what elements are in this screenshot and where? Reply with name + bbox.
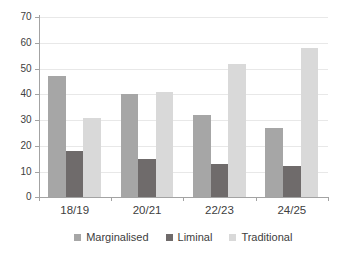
bar-liminal-18-19 [66,151,84,197]
legend-label-traditional: Traditional [241,231,292,243]
y-axis-label-40: 40 [11,89,32,99]
y-axis [39,15,40,197]
x-axis-label-18-19: 18/19 [39,204,111,216]
x-axis-label-20-21: 20/21 [111,204,183,216]
bar-chart: MarginalisedLiminalTraditional 010203040… [0,0,344,256]
gridline-40 [39,94,329,95]
x-axis-tick-4 [328,197,329,201]
bar-liminal-22-23 [211,164,229,197]
y-axis-label-50: 50 [11,64,32,74]
legend-item-liminal: Liminal [166,231,213,243]
y-axis-label-30: 30 [11,115,32,125]
x-axis-tick-3 [256,197,257,201]
x-axis-tick-0 [39,197,40,201]
x-axis-label-22-23: 22/23 [183,204,255,216]
bar-liminal-20-21 [138,159,156,198]
x-axis-label-24-25: 24/25 [256,204,328,216]
bar-traditional-22-23 [228,64,246,198]
gridline-70 [39,17,329,18]
legend-swatch-icon-traditional [229,234,236,241]
y-axis-label-70: 70 [11,12,32,22]
x-axis-tick-1 [111,197,112,201]
legend-item-marginalised: Marginalised [74,231,148,243]
bar-traditional-18-19 [83,118,101,198]
legend-label-marginalised: Marginalised [86,231,148,243]
legend-label-liminal: Liminal [178,231,213,243]
bar-marginalised-24-25 [265,128,283,197]
y-axis-label-60: 60 [11,38,32,48]
bar-marginalised-20-21 [121,94,139,197]
gridline-20 [39,146,329,147]
bar-marginalised-22-23 [193,115,211,197]
legend-item-traditional: Traditional [229,231,292,243]
y-axis-label-0: 0 [11,192,32,202]
bar-marginalised-18-19 [48,76,66,197]
y-axis-label-20: 20 [11,141,32,151]
gridline-30 [39,120,329,121]
legend-swatch-icon-marginalised [74,234,81,241]
x-axis-tick-2 [183,197,184,201]
bar-liminal-24-25 [283,166,301,197]
legend-swatch-icon-liminal [166,234,173,241]
gridline-50 [39,69,329,70]
legend: MarginalisedLiminalTraditional [39,231,329,243]
y-axis-label-10: 10 [11,167,32,177]
bar-traditional-20-21 [156,92,174,197]
gridline-60 [39,43,329,44]
bar-traditional-24-25 [301,48,319,197]
